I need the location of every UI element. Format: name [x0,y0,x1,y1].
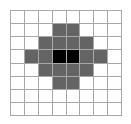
cell-gray [53,77,66,89]
cell-empty [108,37,121,49]
figure-canvas [0,0,131,124]
cell-gray [67,77,80,89]
cell-gray [67,37,80,49]
cell-empty [94,11,107,23]
cell-gray [25,50,38,62]
cell-empty [25,103,38,115]
cell-empty [25,77,38,89]
cell-empty [25,11,38,23]
cell-empty [67,90,80,102]
cell-empty [39,24,52,36]
cell-empty [25,64,38,76]
cell-gray [80,37,93,49]
cell-gray [80,50,93,62]
cell-empty [11,64,24,76]
cell-empty [39,90,52,102]
cell-empty [53,90,66,102]
cell-empty [108,11,121,23]
cell-empty [11,50,24,62]
cell-empty [108,50,121,62]
cell-empty [94,24,107,36]
cell-empty [108,90,121,102]
cell-empty [80,103,93,115]
cell-gray [80,64,93,76]
cell-gray [53,24,66,36]
cell-empty [11,37,24,49]
cell-empty [53,11,66,23]
cell-empty [25,37,38,49]
cell-empty [94,77,107,89]
cell-empty [80,24,93,36]
cell-empty [11,103,24,115]
cell-empty [39,77,52,89]
cell-black [53,50,66,62]
cell-empty [94,90,107,102]
pixel-grid [10,10,122,116]
cell-empty [11,11,24,23]
cell-empty [67,103,80,115]
cell-empty [39,103,52,115]
cell-gray [39,64,52,76]
cell-gray [94,50,107,62]
cell-empty [25,90,38,102]
cell-empty [108,77,121,89]
cell-gray [39,50,52,62]
cell-gray [67,24,80,36]
cell-empty [94,64,107,76]
cell-empty [80,11,93,23]
cell-empty [94,37,107,49]
cell-empty [53,103,66,115]
cell-gray [53,37,66,49]
cell-empty [11,90,24,102]
cell-gray [53,64,66,76]
cell-empty [11,24,24,36]
cell-empty [94,103,107,115]
cell-empty [39,11,52,23]
cell-empty [11,77,24,89]
cell-empty [108,103,121,115]
cell-empty [108,64,121,76]
cell-gray [67,64,80,76]
cell-empty [80,90,93,102]
cell-empty [108,24,121,36]
cell-empty [25,24,38,36]
cell-empty [80,77,93,89]
cell-black [67,50,80,62]
cell-empty [67,11,80,23]
cell-gray [39,37,52,49]
